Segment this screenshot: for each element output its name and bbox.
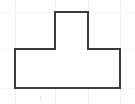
figure-canvas xyxy=(0,0,135,104)
figure-svg xyxy=(0,0,135,104)
